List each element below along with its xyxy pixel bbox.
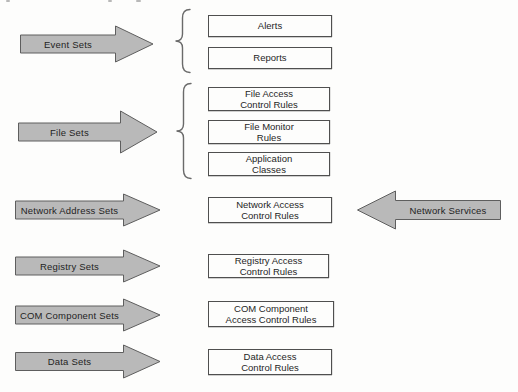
arrow-label-registry-sets: Registry Sets: [15, 249, 124, 283]
box-label-alerts: Alerts: [258, 20, 282, 32]
box-file-access-control-rules: File Access Control Rules: [208, 87, 330, 111]
box-file-monitor-rules: File Monitor Rules: [208, 120, 330, 144]
brace-file-sets-icon: [172, 82, 194, 180]
arrow-network-services: Network Services: [357, 190, 501, 230]
box-com-component-access-control-rules: COM Component Access Control Rules: [208, 301, 334, 327]
arrow-com-component-sets: COM Component Sets: [15, 298, 161, 332]
arrow-label-com-component-sets: COM Component Sets: [15, 298, 124, 332]
box-application-classes: Application Classes: [208, 152, 330, 176]
arrow-network-address-sets: Network Address Sets: [15, 193, 161, 227]
arrow-registry-sets: Registry Sets: [15, 249, 161, 283]
box-label-reports: Reports: [253, 52, 286, 64]
box-label-file-monitor-rules: File Monitor Rules: [244, 121, 294, 144]
arrow-label-file-sets: File Sets: [18, 110, 121, 154]
box-data-access-control-rules: Data Access Control Rules: [208, 349, 332, 375]
box-label-application-classes: Application Classes: [246, 153, 292, 176]
arrow-label-event-sets: Event Sets: [20, 25, 116, 63]
box-label-com-component-access-control-rules: COM Component Access Control Rules: [226, 303, 317, 326]
arrow-label-network-services: Network Services: [395, 190, 501, 230]
brace-event-sets-icon: [171, 8, 193, 74]
policy-sets-diagram: Event Sets Alerts Reports File Sets File…: [0, 0, 518, 392]
box-label-registry-access-control-rules: Registry Access Control Rules: [235, 255, 303, 278]
box-alerts: Alerts: [208, 15, 332, 37]
arrow-data-sets: Data Sets: [15, 344, 161, 379]
box-label-network-access-control-rules: Network Access Control Rules: [236, 199, 304, 222]
box-label-data-access-control-rules: Data Access Control Rules: [241, 351, 299, 374]
arrow-file-sets: File Sets: [18, 110, 158, 154]
arrow-label-network-address-sets: Network Address Sets: [15, 193, 124, 227]
arrow-label-data-sets: Data Sets: [15, 344, 124, 379]
box-network-access-control-rules: Network Access Control Rules: [208, 197, 332, 223]
arrow-event-sets: Event Sets: [20, 25, 154, 63]
box-reports: Reports: [208, 47, 332, 69]
box-label-file-access-control-rules: File Access Control Rules: [240, 88, 298, 111]
box-registry-access-control-rules: Registry Access Control Rules: [208, 254, 329, 278]
